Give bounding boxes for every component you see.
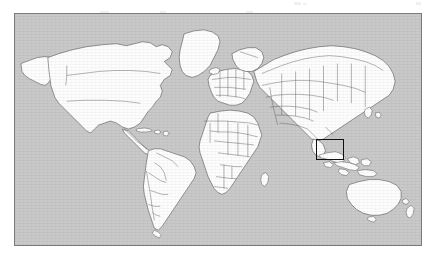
scan-artifact	[294, 2, 301, 5]
scan-artifact	[303, 3, 307, 5]
study-area-highlight	[316, 139, 344, 160]
map-frame	[14, 13, 422, 246]
world-map-svg	[15, 14, 421, 245]
world-map-figure	[0, 0, 434, 259]
scan-artifact	[416, 2, 421, 5]
